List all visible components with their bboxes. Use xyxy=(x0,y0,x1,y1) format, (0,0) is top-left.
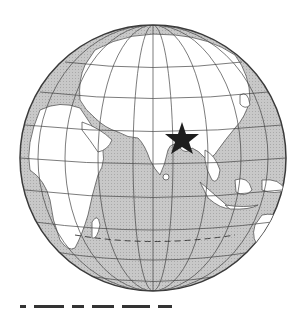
caption-fragment xyxy=(20,300,290,310)
globe-map xyxy=(0,0,305,310)
